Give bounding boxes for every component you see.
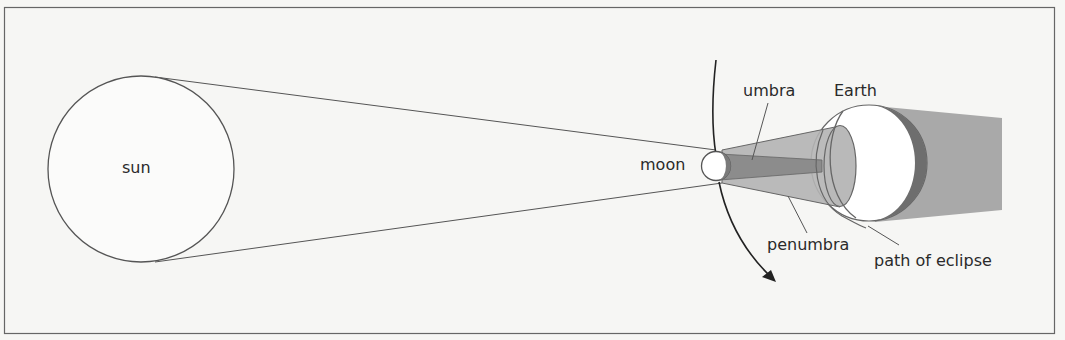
penumbra-label: penumbra [767, 237, 849, 253]
penumbra-leader-line [788, 196, 807, 233]
earth-label: Earth [834, 83, 877, 99]
path-leader-line [868, 226, 899, 245]
eclipse-diagram [0, 0, 1065, 340]
lower-tangent-line [155, 183, 722, 262]
sun-label: sun [122, 160, 151, 176]
upper-tangent-line [155, 77, 716, 150]
penumbra-end-ellipse [824, 126, 856, 207]
orbit-arrow-head [762, 270, 776, 282]
path-of-eclipse-label: path of eclipse [874, 253, 992, 269]
moon-label: moon [640, 157, 685, 173]
umbra-label: umbra [743, 83, 795, 99]
